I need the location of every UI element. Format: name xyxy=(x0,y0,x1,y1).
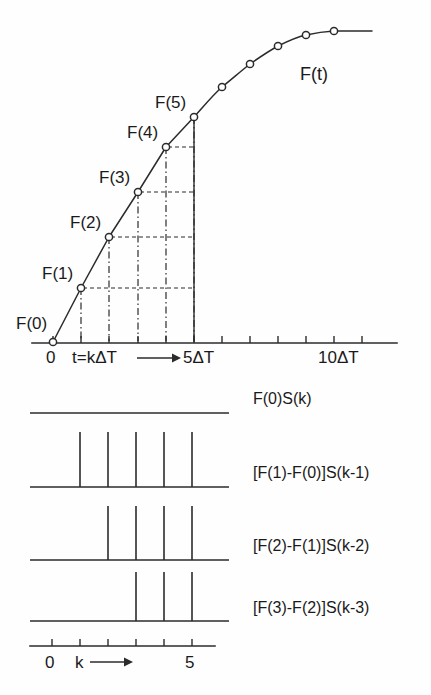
marker-f6 xyxy=(218,83,225,90)
marker-f9 xyxy=(302,31,309,38)
panel-3-group: [F(2)-F(1)]S(k-2) xyxy=(30,506,369,560)
marker-f4 xyxy=(162,143,169,150)
marker-f2 xyxy=(105,233,112,240)
figure-container: F(0) F(1) F(2) F(3) F(4) F(5) F(t) 0 t=k… xyxy=(0,0,431,695)
impulse-decomposition-figure: F(0) F(1) F(2) F(3) F(4) F(5) F(t) 0 t=k… xyxy=(0,0,431,695)
marker-f5 xyxy=(190,113,197,120)
label-k-five: 5 xyxy=(185,653,194,672)
marker-f10 xyxy=(330,27,337,34)
k-axis-group: 0 k 5 xyxy=(30,639,215,672)
label-x-five: 5ΔT xyxy=(183,348,214,367)
panel-4-group: [F(3)-F(2)]S(k-3) xyxy=(30,572,369,621)
panel-4-label: [F(3)-F(2)]S(k-3) xyxy=(253,599,369,616)
panel-1-group: F(0)S(k) xyxy=(30,390,312,413)
marker-f1 xyxy=(77,284,84,291)
panel-2-stems xyxy=(80,432,192,487)
label-k-arrow-text: k xyxy=(75,653,84,672)
label-ft-curve: F(t) xyxy=(300,64,328,84)
marker-f0 xyxy=(49,338,56,345)
label-f2: F(2) xyxy=(70,213,101,232)
panel-3-label: [F(2)-F(1)]S(k-2) xyxy=(253,537,369,554)
label-f1: F(1) xyxy=(42,264,73,283)
t-axis-ticks xyxy=(53,336,362,343)
k-axis-arrow-icon xyxy=(90,658,133,667)
label-f3: F(3) xyxy=(99,168,130,187)
label-f5: F(5) xyxy=(155,93,186,112)
label-f0: F(0) xyxy=(16,314,47,333)
marker-f3 xyxy=(134,188,141,195)
label-x-origin: 0 xyxy=(46,348,55,367)
panel-2-group: [F(1)-F(0)]S(k-1) xyxy=(30,432,369,487)
label-f4: F(4) xyxy=(127,123,158,142)
panel-4-stems xyxy=(136,572,192,621)
k-axis-ticks xyxy=(52,639,192,646)
panel-2-label: [F(1)-F(0)]S(k-1) xyxy=(253,464,369,481)
marker-f7 xyxy=(246,60,253,67)
main-curve-panel: F(0) F(1) F(2) F(3) F(4) F(5) F(t) 0 t=k… xyxy=(16,27,397,367)
label-x-ten: 10ΔT xyxy=(318,348,359,367)
t-axis-arrow-icon xyxy=(137,354,181,363)
panel-1-label: F(0)S(k) xyxy=(253,390,312,407)
marker-f8 xyxy=(274,42,281,49)
label-k-origin: 0 xyxy=(45,653,54,672)
panel-3-stems xyxy=(108,506,192,560)
label-x-arrow-text: t=kΔT xyxy=(72,348,117,367)
